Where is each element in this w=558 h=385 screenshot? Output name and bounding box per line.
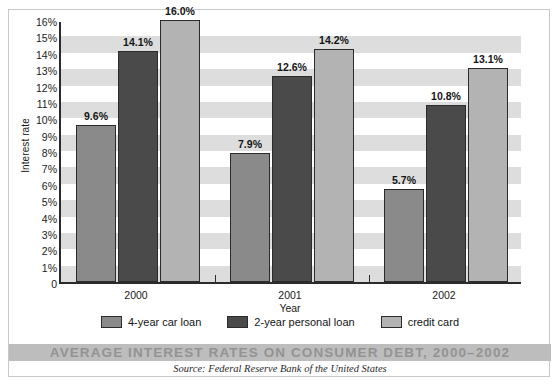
x-tick-label: 2000 [59,289,213,301]
bar-value-label: 5.7% [376,174,432,186]
x-axis-group-tick [369,275,370,282]
bar [160,20,200,282]
y-tick-label: 2% [21,246,57,256]
y-tick-label: 15% [21,33,57,43]
chart-title: AVERAGE INTEREST RATES ON CONSUMER DEBT,… [50,345,510,360]
legend-item: 2-year personal loan [227,316,354,328]
bar [426,105,466,282]
x-axis-title: Year [59,302,521,314]
y-tick-label: 11% [21,99,57,109]
title-band: AVERAGE INTEREST RATES ON CONSUMER DEBT,… [9,344,551,361]
bar [230,153,270,282]
legend-swatch-icon [101,316,122,328]
y-tick-label: 0 [21,279,57,289]
y-axis-tick-labels: 16%15%14%13%12%11%10%9%8%7%6%5%4%3%2%1%0 [21,22,57,284]
bar-value-label: 9.6% [68,110,124,122]
chart-plot-region: Interest rate 16%15%14%13%12%11%10%9%8%7… [9,10,551,310]
y-tick-label: 1% [21,263,57,273]
x-axis-group-tick [215,275,216,282]
bars-layer: 9.6%14.1%16.0%7.9%12.6%14.2%5.7%10.8%13.… [61,22,521,282]
bar-value-label: 14.2% [306,34,362,46]
legend-item: credit card [381,316,459,328]
bar [468,68,508,283]
y-tick-label: 8% [21,148,57,158]
bar [384,189,424,282]
y-tick-label: 10% [21,115,57,125]
y-tick-label: 16% [21,17,57,27]
chart-legend: 4-year car loan2-year personal loancredi… [9,316,551,328]
legend-swatch-icon [381,316,402,328]
bar [272,76,312,282]
bar-value-label: 16.0% [152,5,208,17]
y-tick-label: 6% [21,181,57,191]
y-tick-label: 7% [21,164,57,174]
plot-area: 9.6%14.1%16.0%7.9%12.6%14.2%5.7%10.8%13.… [59,22,521,284]
bar-value-label: 7.9% [222,138,278,150]
bar-value-label: 13.1% [460,53,516,65]
legend-swatch-icon [227,316,248,328]
bar [76,125,116,282]
legend-label: 2-year personal loan [254,316,354,328]
legend-item: 4-year car loan [101,316,201,328]
y-tick-label: 12% [21,83,57,93]
y-tick-label: 13% [21,66,57,76]
x-tick-label: 2001 [213,289,367,301]
bar-value-label: 14.1% [110,36,166,48]
y-tick-label: 5% [21,197,57,207]
legend-label: 4-year car loan [128,316,201,328]
source-note: Source: Federal Reserve Bank of the Unit… [9,363,551,374]
legend-label: credit card [408,316,459,328]
y-tick-label: 9% [21,132,57,142]
bar [118,51,158,282]
y-tick-label: 4% [21,214,57,224]
bar-value-label: 10.8% [418,90,474,102]
bar [314,49,354,282]
chart-figure: Interest rate 16%15%14%13%12%11%10%9%8%7… [8,9,550,377]
y-tick-label: 14% [21,50,57,60]
y-tick-label: 3% [21,230,57,240]
x-tick-label: 2002 [367,289,521,301]
bar-value-label: 12.6% [264,61,320,73]
